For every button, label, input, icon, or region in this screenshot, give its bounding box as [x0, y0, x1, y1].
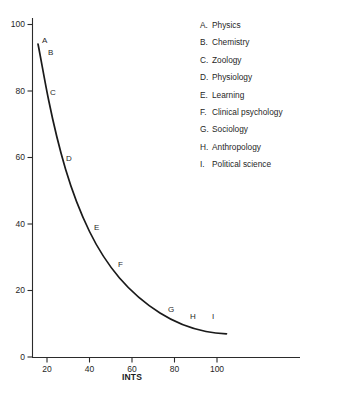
- curve-point-label-g: G: [168, 306, 174, 314]
- legend-item-key: E.: [200, 91, 212, 99]
- legend-item: H. Anthropology: [200, 143, 335, 160]
- legend-item: C. Zoology: [200, 56, 335, 73]
- legend-item-key: H.: [200, 143, 212, 151]
- legend-item-label: Physics: [212, 21, 241, 29]
- curve-point-label-h: H: [190, 313, 196, 321]
- legend-item: B. Chemistry: [200, 38, 335, 55]
- x-tick-label-100: 100: [205, 365, 229, 374]
- legend-item: G. Sociology: [200, 125, 335, 142]
- legend-item-label: Anthropology: [212, 143, 261, 151]
- legend-item: A. Physics: [200, 21, 335, 38]
- legend-item-key: I.: [200, 160, 212, 168]
- chart-legend: A. Physics B. Chemistry C. Zoology D. Ph…: [200, 21, 335, 178]
- y-tick-label-0: 0: [1, 353, 25, 362]
- legend-item-label: Zoology: [212, 56, 242, 64]
- legend-item-key: B.: [200, 38, 212, 46]
- chart-figure: 100 80 60 40 20 0 20 40 60 80 100 INTS A…: [0, 0, 337, 395]
- curve-point-label-e: E: [94, 224, 99, 232]
- legend-item-key: F.: [200, 108, 212, 116]
- x-tick-marks: [47, 358, 217, 363]
- legend-item-key: A.: [200, 21, 212, 29]
- legend-item-key: G.: [200, 125, 212, 133]
- curve-point-label-b: B: [48, 49, 53, 57]
- x-tick-label-20: 20: [35, 365, 59, 374]
- y-tick-label-100: 100: [1, 20, 25, 29]
- legend-item-label: Political science: [212, 160, 271, 168]
- y-tick-label-80: 80: [1, 87, 25, 96]
- y-tick-label-60: 60: [1, 153, 25, 162]
- data-curve: [38, 44, 227, 334]
- y-tick-marks: [28, 25, 33, 358]
- legend-item-key: C.: [200, 56, 212, 64]
- legend-item-label: Physiology: [212, 73, 252, 81]
- legend-item-label: Chemistry: [212, 38, 249, 46]
- legend-item: F. Clinical psychology: [200, 108, 335, 125]
- x-axis-title: INTS: [107, 372, 157, 382]
- legend-item: E. Learning: [200, 91, 335, 108]
- y-tick-label-20: 20: [1, 286, 25, 295]
- curve-point-label-c: C: [50, 89, 56, 97]
- legend-item: I. Political science: [200, 160, 335, 177]
- y-tick-label-40: 40: [1, 220, 25, 229]
- legend-item-label: Sociology: [212, 125, 248, 133]
- legend-item: D. Physiology: [200, 73, 335, 90]
- curve-point-label-d: D: [66, 155, 72, 163]
- x-tick-label-80: 80: [163, 365, 187, 374]
- curve-point-label-a: A: [42, 37, 47, 45]
- legend-item-key: D.: [200, 73, 212, 81]
- x-tick-label-40: 40: [78, 365, 102, 374]
- legend-item-label: Clinical psychology: [212, 108, 283, 116]
- curve-point-label-f: F: [118, 261, 123, 269]
- curve-point-label-i: I: [212, 313, 214, 321]
- legend-item-label: Learning: [212, 91, 244, 99]
